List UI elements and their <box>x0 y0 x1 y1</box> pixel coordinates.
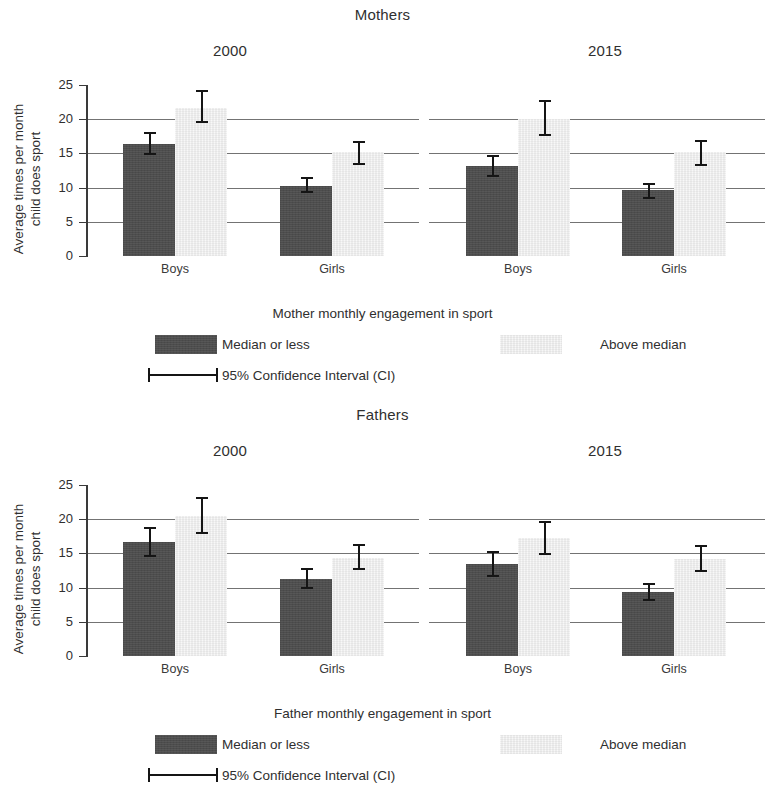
y-axis-tick <box>79 485 87 486</box>
legend-label-confidence-interval: 95% Confidence Interval (CI) <box>222 368 395 383</box>
error-bar-cap-top <box>643 183 655 185</box>
gridline <box>429 519 765 520</box>
x-axis-label-2000-girls: Girls <box>297 662 367 676</box>
x-axis-label-2015-boys: Boys <box>483 662 553 676</box>
y-axis-tick <box>79 553 87 554</box>
y-axis-tick-label: 0 <box>49 649 73 662</box>
error-bar-stem <box>492 551 494 577</box>
error-bar-median-or-less <box>648 583 649 601</box>
plot-area-mothers: 0510152025BoysGirlsBoysGirlsMother month… <box>0 0 765 300</box>
gridline <box>429 553 765 554</box>
error-bar-cap-bottom <box>487 175 499 177</box>
legend-label-median-or-less: Median or less <box>222 737 310 752</box>
error-bar-above-median <box>544 521 545 555</box>
error-bar-stem <box>544 100 546 136</box>
error-bar-above-median <box>700 140 701 165</box>
error-bar-stem <box>149 132 151 155</box>
bar-mothers-2000-girls-median-or-less <box>280 186 332 256</box>
error-bar-cap-top <box>353 141 365 143</box>
error-bar-stem <box>306 568 308 589</box>
error-bar-cap-top <box>301 177 313 179</box>
error-bar-median-or-less <box>306 568 307 589</box>
error-bar-cap-top <box>196 90 208 92</box>
bar-fathers-2015-girls-above-median <box>674 559 726 656</box>
x-axis-label-2015-boys: Boys <box>483 262 553 276</box>
y-axis-tick <box>79 188 87 189</box>
error-bar-cap-bottom <box>353 568 365 570</box>
legend-swatch-median-or-less <box>155 735 217 754</box>
ci-symbol-line <box>148 774 218 776</box>
y-axis-tick <box>79 85 87 86</box>
x-axis-label-2015-girls: Girls <box>639 662 709 676</box>
error-bar-stem <box>700 140 702 165</box>
error-bar-cap-bottom <box>539 553 551 555</box>
error-bar-cap-top <box>487 155 499 157</box>
error-bar-median-or-less <box>149 132 150 155</box>
y-axis-tick-label: 0 <box>49 249 73 262</box>
y-axis-tick-label: 5 <box>49 215 73 228</box>
gridline <box>86 519 419 520</box>
error-bar-above-median <box>544 100 545 136</box>
error-bar-stem <box>492 155 494 176</box>
bar-mothers-2015-girls-median-or-less <box>622 190 674 256</box>
error-bar-cap-top <box>643 583 655 585</box>
bar-fathers-2015-girls-median-or-less <box>622 592 674 656</box>
error-bar-stem <box>544 521 546 555</box>
bar-mothers-2000-boys-above-median <box>175 108 227 256</box>
y-axis-tick-label: 5 <box>49 615 73 628</box>
error-bar-cap-bottom <box>643 599 655 601</box>
error-bar-median-or-less <box>492 551 493 577</box>
bar-mothers-2015-boys-above-median <box>518 119 570 256</box>
error-bar-above-median <box>201 497 202 535</box>
bar-mothers-2015-girls-above-median <box>674 152 726 256</box>
ci-symbol-cap-right <box>216 368 218 382</box>
y-axis-line <box>86 485 88 657</box>
y-axis-tick-label: 25 <box>49 78 73 91</box>
error-bar-median-or-less <box>149 527 150 556</box>
error-bar-cap-bottom <box>695 570 707 572</box>
error-bar-stem <box>358 544 360 570</box>
chart-panel-mothers: Mothers 2000 2015 Average times per mont… <box>0 0 765 400</box>
legend-label-above-median: Above median <box>600 737 686 752</box>
error-bar-stem <box>700 545 702 572</box>
y-axis-tick-label: 10 <box>49 581 73 594</box>
legend-label-confidence-interval: 95% Confidence Interval (CI) <box>222 768 395 783</box>
x-axis-label-2000-boys: Boys <box>140 262 210 276</box>
x-axis-label-2000-boys: Boys <box>140 662 210 676</box>
y-axis-tick-label: 15 <box>49 146 73 159</box>
error-bar-stem <box>201 90 203 123</box>
bar-mothers-2000-girls-above-median <box>332 152 384 256</box>
bar-fathers-2000-boys-above-median <box>175 516 227 656</box>
error-bar-cap-bottom <box>301 191 313 193</box>
error-bar-cap-top <box>539 521 551 523</box>
error-bar-cap-top <box>144 527 156 529</box>
error-bar-cap-bottom <box>487 575 499 577</box>
bar-fathers-2000-girls-above-median <box>332 558 384 656</box>
error-bar-cap-top <box>539 100 551 102</box>
x-axis-label-2015-girls: Girls <box>639 262 709 276</box>
ci-symbol-cap-right <box>216 768 218 782</box>
legend-symbol-confidence-interval <box>148 367 218 383</box>
gridline <box>429 119 765 120</box>
error-bar-cap-bottom <box>539 134 551 136</box>
y-axis-tick <box>79 622 87 623</box>
error-bar-cap-bottom <box>301 587 313 589</box>
error-bar-cap-top <box>695 140 707 142</box>
y-axis-tick-label: 20 <box>49 112 73 125</box>
error-bar-cap-bottom <box>144 153 156 155</box>
error-bar-above-median <box>201 90 202 123</box>
legend-label-above-median: Above median <box>600 337 686 352</box>
error-bar-above-median <box>358 141 359 165</box>
ci-symbol-line <box>148 374 218 376</box>
error-bar-cap-bottom <box>196 532 208 534</box>
error-bar-cap-top <box>353 544 365 546</box>
y-axis-line <box>86 85 88 257</box>
plot-area-fathers: 0510152025BoysGirlsBoysGirlsFather month… <box>0 400 765 700</box>
bar-fathers-2000-boys-median-or-less <box>123 542 175 656</box>
y-axis-tick <box>79 222 87 223</box>
error-bar-cap-top <box>196 497 208 499</box>
chart-panel-fathers: Fathers 2000 2015 Average times per mont… <box>0 400 765 789</box>
error-bar-cap-top <box>487 551 499 553</box>
error-bar-median-or-less <box>306 177 307 193</box>
legend-swatch-above-median <box>500 735 562 754</box>
